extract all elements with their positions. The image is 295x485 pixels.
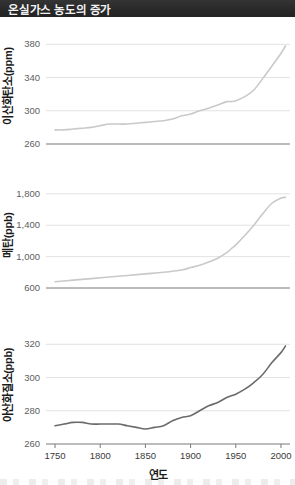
plot-area-ch4: [0, 168, 295, 314]
chart-nitrous-oxide: 아산화질소(ppb) 26028030032017501800185019001…: [0, 320, 295, 465]
y-tick-label: 300: [6, 105, 40, 116]
data-line-co2: [55, 46, 285, 130]
x-tick-label: 1900: [171, 450, 211, 461]
y-tick-label: 600: [6, 282, 40, 293]
y-tick-label: 340: [6, 72, 40, 83]
y-tick-label: 260: [6, 138, 40, 149]
x-tick-label: 1800: [80, 450, 120, 461]
plot-area-n2o: [0, 320, 295, 465]
y-tick-label: 380: [6, 38, 40, 49]
y-tick-label: 260: [6, 438, 40, 449]
title-bar: 온실가스 농도의 증가: [0, 0, 295, 17]
y-tick-label: 1,800: [6, 188, 40, 199]
x-tick-label: 1750: [35, 450, 75, 461]
page-bottom-artifact: [0, 479, 295, 485]
y-tick-label: 300: [6, 372, 40, 383]
y-tick-label: 280: [6, 405, 40, 416]
x-tick-label: 1850: [125, 450, 165, 461]
chart-carbon-dioxide: 이산화탄소(ppm) 260300340380: [0, 22, 295, 162]
page-title: 온실가스 농도의 증가: [8, 1, 111, 17]
y-tick-label: 320: [6, 338, 40, 349]
chart-methane: 메탄(ppb) 6001,0001,4001,800: [0, 168, 295, 314]
plot-area-co2: [0, 22, 295, 162]
data-line-n2o: [55, 346, 285, 429]
x-tick-label: 2000: [261, 450, 295, 461]
y-tick-label: 1,400: [6, 219, 40, 230]
data-line-ch4: [55, 197, 285, 281]
y-tick-label: 1,000: [6, 251, 40, 262]
x-tick-label: 1950: [216, 450, 256, 461]
